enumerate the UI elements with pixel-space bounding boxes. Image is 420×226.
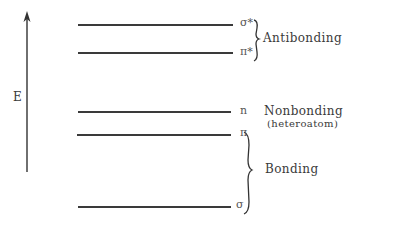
symbol-pi: π	[240, 127, 247, 138]
antibonding-label: Antibonding	[263, 32, 342, 44]
level-pi-line	[77, 134, 231, 136]
symbol-n: n	[240, 105, 247, 116]
nonbonding-text: Nonbonding	[264, 104, 343, 118]
symbol-pi-star: π*	[240, 46, 253, 57]
level-sigma-star-line	[78, 24, 233, 26]
level-sigma-line	[78, 206, 231, 208]
level-pi-star-line	[78, 52, 233, 54]
antibonding-brace	[254, 20, 259, 61]
nonbonding-note: (heteroatom)	[267, 118, 338, 129]
level-n-line	[78, 111, 231, 113]
nonbonding-label: Nonbonding (heteroatom)	[264, 105, 420, 129]
bonding-brace	[244, 132, 252, 214]
energy-axis-label: E	[13, 91, 22, 103]
symbol-sigma: σ	[236, 199, 244, 210]
symbol-sigma-star: σ*	[240, 17, 253, 28]
bonding-label: Bonding	[265, 163, 319, 175]
